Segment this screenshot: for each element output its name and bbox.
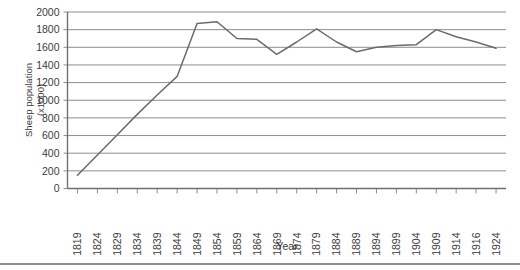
x-tick-label: 1824: [91, 232, 103, 256]
x-tick-label: 1859: [231, 232, 243, 256]
x-tick-label: 1884: [330, 232, 342, 256]
sheep-population-chart-figure: 2000180016001400120010008006004002000 18…: [0, 0, 520, 270]
y-tick-label: 200: [42, 165, 60, 177]
y-tick-label: 2000: [36, 6, 60, 18]
x-tick-label: 1849: [191, 232, 203, 256]
x-tick-label: 1844: [171, 232, 183, 256]
x-tick-label: 1914: [450, 232, 462, 256]
x-tick-label: 1819: [71, 232, 83, 256]
y-axis-label-line1: Sheep population: [23, 63, 34, 137]
y-tick-label: 400: [42, 147, 60, 159]
x-tick-label: 1879: [310, 232, 322, 256]
y-tick-label: 0: [54, 182, 60, 194]
x-tick-label: 1909: [430, 232, 442, 256]
x-tick-label: 1924: [490, 232, 502, 256]
x-tick-label: 1899: [390, 232, 402, 256]
sheep-population-line: [77, 22, 496, 176]
y-axis-label-line2: (x1000): [35, 84, 46, 116]
x-tick-label: 1889: [350, 232, 362, 256]
x-tick-label: 1829: [111, 232, 123, 256]
y-tick-label: 1400: [36, 59, 60, 71]
y-tick-label: 1600: [36, 41, 60, 53]
x-tick-label: 1916: [470, 232, 482, 256]
x-tick-label: 1839: [151, 232, 163, 256]
x-tick-label: 1834: [131, 232, 143, 256]
gridlines-group: [68, 12, 507, 189]
y-axis-label: Sheep population (x1000): [23, 63, 46, 137]
chart-svg: 2000180016001400120010008006004002000 18…: [0, 0, 520, 270]
x-axis-title: Year: [276, 240, 298, 252]
x-tick-label: 1864: [251, 232, 263, 256]
x-tick-label: 1854: [211, 232, 223, 256]
x-tick-label: 1904: [410, 232, 422, 256]
y-tick-label: 1800: [36, 23, 60, 35]
x-tick-label: 1894: [370, 232, 382, 256]
y-tick-label: 600: [42, 129, 60, 141]
